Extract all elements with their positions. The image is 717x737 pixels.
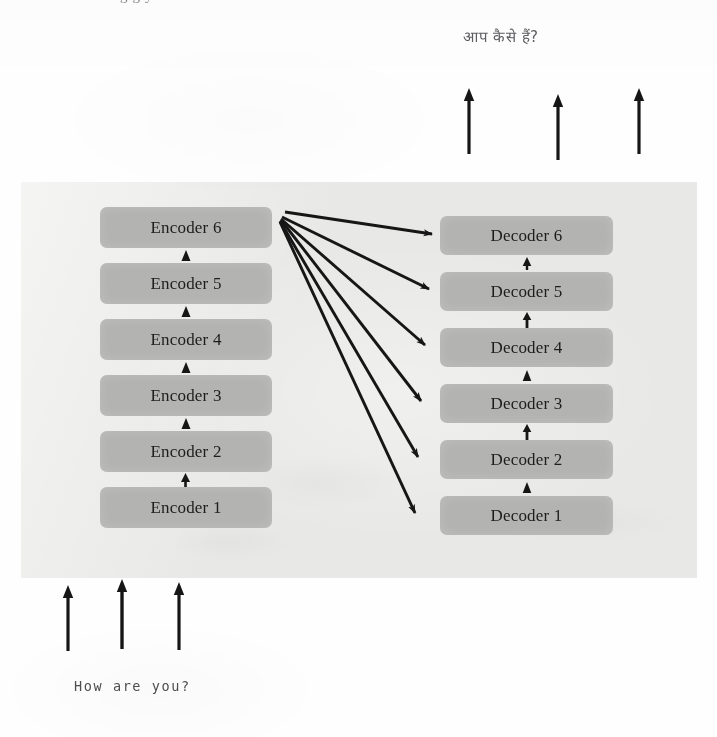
encoder-flow-arrow-5-to-6: [181, 250, 191, 262]
decoder-flow-arrow-5-to-6: [522, 257, 532, 269]
encoder-flow-arrow-2-to-3: [181, 418, 191, 430]
cropped-header-text: g g y: [0, 0, 717, 7]
encoder-flow-arrow-3-to-4: [181, 362, 191, 374]
decoder-flow-arrow-3-to-4: [522, 370, 532, 382]
decoder-block-4-label: Decoder 4: [490, 338, 562, 358]
decoder-block-6-label: Decoder 6: [490, 226, 562, 246]
input-arrow-1: [60, 583, 76, 651]
diagram-page: g g y आप कैसे हैं? Encoder 6 En: [0, 0, 717, 737]
decoder-block-5[interactable]: Decoder 5: [440, 272, 613, 311]
output-arrow-3: [631, 86, 647, 154]
input-arrow-3: [171, 580, 187, 650]
decoder-block-3[interactable]: Decoder 3: [440, 384, 613, 423]
output-arrow-2: [550, 92, 566, 160]
input-sentence-english: How are you?: [74, 678, 191, 694]
decoder-block-5-label: Decoder 5: [490, 282, 562, 302]
decoder-flow-arrow-2-to-3: [522, 424, 532, 436]
input-arrow-2: [114, 577, 130, 649]
decoder-block-1-label: Decoder 1: [490, 506, 562, 526]
encoder-block-5[interactable]: Encoder 5: [100, 263, 272, 304]
encoder-block-1-label: Encoder 1: [150, 498, 221, 518]
cropped-header-text-label: g g y: [0, 0, 153, 3]
output-sentence-hindi: आप कैसे हैं?: [463, 26, 539, 46]
encoder-block-6-label: Encoder 6: [150, 218, 221, 238]
encoder-block-2-label: Encoder 2: [150, 442, 221, 462]
encoder-block-2[interactable]: Encoder 2: [100, 431, 272, 472]
encoder-block-4-label: Encoder 4: [150, 330, 221, 350]
encoder-block-5-label: Encoder 5: [150, 274, 221, 294]
decoder-block-2-label: Decoder 2: [490, 450, 562, 470]
decoder-flow-arrow-4-to-5: [522, 312, 532, 324]
decoder-block-4[interactable]: Decoder 4: [440, 328, 613, 367]
decoder-block-6[interactable]: Decoder 6: [440, 216, 613, 255]
encoder-block-4[interactable]: Encoder 4: [100, 319, 272, 360]
output-arrow-1: [461, 86, 477, 154]
decoder-block-2[interactable]: Decoder 2: [440, 440, 613, 479]
decoder-flow-arrow-1-to-2: [522, 482, 532, 494]
encoder-flow-arrow-1-to-2: [180, 473, 190, 485]
encoder-block-1[interactable]: Encoder 1: [100, 487, 272, 528]
encoder-flow-arrow-4-to-5: [181, 306, 191, 318]
decoder-block-3-label: Decoder 3: [490, 394, 562, 414]
encoder-block-3[interactable]: Encoder 3: [100, 375, 272, 416]
encoder-block-3-label: Encoder 3: [150, 386, 221, 406]
encoder-block-6[interactable]: Encoder 6: [100, 207, 272, 248]
decoder-block-1[interactable]: Decoder 1: [440, 496, 613, 535]
